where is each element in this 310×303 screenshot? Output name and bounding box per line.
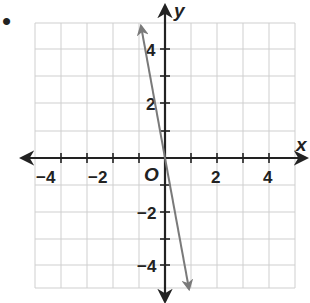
coordinate-plane: • −4 −2 2 4 4 2 −2 −4 O x y	[0, 0, 310, 303]
bullet-dot: •	[2, 6, 11, 36]
y-tick-label: −2	[137, 204, 156, 223]
x-tick-label: −4	[36, 168, 56, 187]
x-axis-label: x	[295, 134, 308, 155]
plotted-line-lower	[165, 158, 189, 289]
x-tick-label: 4	[263, 168, 273, 187]
origin-label: O	[144, 164, 159, 185]
y-axis-label: y	[173, 0, 186, 21]
y-tick-label: −4	[137, 257, 157, 276]
x-tick-label: −2	[88, 168, 107, 187]
x-tick-label: 2	[211, 168, 220, 187]
